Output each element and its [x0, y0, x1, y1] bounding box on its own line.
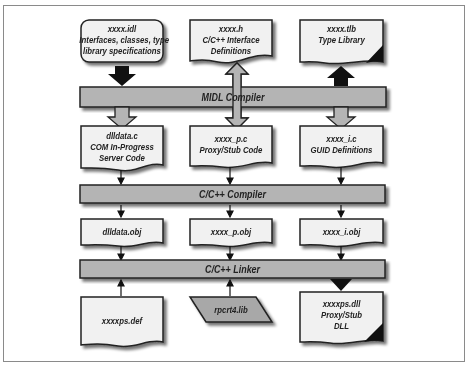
guid-c-filename: xxxx_i.c: [307, 133, 375, 144]
def-filename: xxxxps.def: [88, 315, 155, 326]
dll-filename: xxxxps.dll: [307, 298, 375, 309]
tlb-filename: xxxx.tlb: [307, 23, 375, 34]
idl-filename: xxxx.idl: [88, 23, 155, 34]
header-filename: xxxx.h: [197, 23, 264, 34]
proxy-stub-obj-filename: xxxx_p.obj: [197, 226, 264, 237]
cpp-linker-label: C/C++ Linker: [103, 263, 362, 275]
dlldata-c-filename: dlldata.c: [88, 130, 155, 141]
proxy-stub-c-filename: xxxx_p.c: [197, 133, 264, 144]
arrows-obj-to-linker: [118, 246, 344, 260]
header-desc-1: C/C++ Interface: [193, 34, 268, 45]
guid-c-desc: GUID Definitions: [303, 144, 379, 155]
dlldata-c-desc-2: Server Code: [88, 152, 155, 163]
dll-desc-2: DLL: [307, 320, 375, 331]
midl-compiler-label: MIDL Compiler: [103, 91, 363, 103]
guid-obj-filename: xxxx_i.obj: [307, 226, 375, 237]
arrow-linker-to-dll: [330, 279, 352, 291]
cpp-compiler-label: C/C++ Compiler: [103, 188, 362, 200]
tlb-desc-1: Type Library: [307, 34, 375, 45]
idl-desc-1: Interfaces, classes, type: [79, 34, 164, 45]
dll-desc-1: Proxy/Stub: [307, 309, 375, 320]
proxy-stub-c-desc: Proxy/Stub Code: [193, 144, 268, 155]
arrow-idl-to-midl: [108, 66, 136, 86]
arrow-midl-to-tlb: [327, 66, 355, 86]
idl-desc-2: library specifications: [79, 45, 164, 56]
arrows-compiler-to-obj: [118, 205, 344, 217]
arrows-inputs-to-linker: [118, 280, 233, 296]
header-desc-2: Definitions: [197, 45, 264, 56]
dlldata-obj-filename: dlldata.obj: [88, 226, 155, 237]
arrows-to-compiler: [118, 167, 344, 184]
rpcrt4-lib-filename: rpcrt4.lib: [201, 304, 260, 315]
dlldata-c-desc-1: COM In-Progress: [84, 141, 159, 152]
